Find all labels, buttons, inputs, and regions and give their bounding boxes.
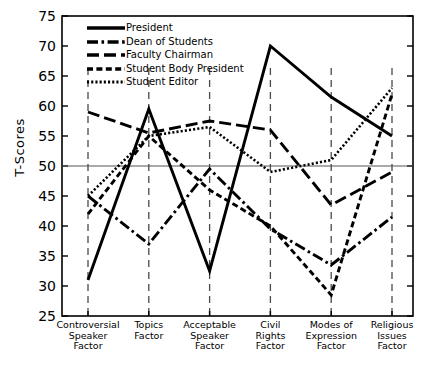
legend-item: Student Body President [86,63,244,75]
series-line-student-editor [88,88,392,196]
line-chart-figure: T-Scores 2530354045505560657075 Controve… [0,0,437,367]
legend-label: Dean of Students [126,36,213,48]
legend-item: Dean of Students [86,36,213,48]
legend-item: President [86,22,173,34]
legend-label: Student Body President [126,63,244,75]
legend-label: Student Editor [126,76,198,88]
legend-item: Faculty Chairman [86,49,213,61]
legend-line-sample [86,22,126,34]
plot-area [0,0,437,367]
legend-item: Student Editor [86,76,198,88]
series-line-dean-of-students [88,169,392,265]
legend-line-sample [86,36,126,48]
legend-label: Faculty Chairman [126,49,213,61]
legend-line-sample [86,49,126,61]
legend-label: President [126,22,173,34]
legend-line-sample [86,63,126,75]
legend-line-sample [86,76,126,88]
